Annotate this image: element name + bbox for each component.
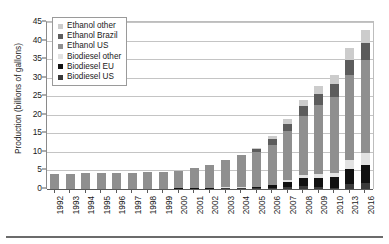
bar-segment	[361, 165, 370, 184]
x-tick-label-2013: 2013	[352, 196, 360, 214]
legend-item-biodiesel-other[interactable]: Biodiesel other	[56, 52, 121, 62]
y-tick-label-30: 30	[0, 72, 42, 80]
x-tick-mark-1994	[85, 189, 86, 193]
bar-segment	[361, 60, 370, 153]
bar-segment	[299, 178, 308, 187]
y-tick-label-45: 45	[0, 17, 42, 25]
legend-swatch-icon	[58, 24, 63, 29]
y-tick-label-10: 10	[0, 147, 42, 155]
x-tick-mark-1992	[54, 189, 55, 193]
x-tick-label-2008: 2008	[306, 196, 314, 214]
x-tick-mark-2013	[349, 189, 350, 193]
y-tick-label-0: 0	[0, 184, 42, 192]
bar-column-2006[interactable]	[268, 22, 277, 189]
legend-item-ethanol-brazil[interactable]: Ethanol Brazil	[56, 31, 121, 41]
x-tick-mark-1993	[69, 189, 70, 193]
bar-segment	[159, 172, 168, 189]
legend-swatch-icon	[58, 75, 63, 80]
bar-segment	[66, 174, 75, 189]
chart-figure: Production (billions of gallons) 0510152…	[0, 0, 389, 244]
bar-column-2007[interactable]	[283, 22, 292, 189]
bar-column-2002[interactable]	[205, 22, 214, 189]
legend-item-ethanol-other[interactable]: Ethanol other	[56, 21, 121, 31]
bar-segment	[221, 160, 230, 187]
x-tick-mark-2010	[333, 189, 334, 193]
legend-label: Biodiesel other	[67, 53, 121, 61]
legend-item-biodiesel-eu[interactable]: Biodiesel EU	[56, 62, 121, 72]
legend-swatch-icon	[58, 54, 63, 59]
bar-segment	[128, 173, 137, 189]
x-tick-label-2010: 2010	[337, 196, 345, 214]
bar-segment	[314, 178, 323, 188]
bar-segment	[190, 168, 199, 188]
x-tick-label-2000: 2000	[181, 196, 189, 214]
x-tick-mark-1999	[162, 189, 163, 193]
bar-segment	[330, 75, 339, 85]
x-tick-mark-2008	[302, 189, 303, 193]
x-tick-mark-2003	[225, 189, 226, 193]
x-tick-label-1998: 1998	[150, 196, 158, 214]
bar-segment	[299, 106, 308, 116]
bar-column-2009[interactable]	[314, 22, 323, 189]
bar-column-1998[interactable]	[143, 22, 152, 189]
bar-segment	[345, 75, 354, 160]
bar-segment	[345, 160, 354, 169]
x-tick-label-1997: 1997	[135, 196, 143, 214]
x-tick-label-2006: 2006	[274, 196, 282, 214]
x-tick-label-1992: 1992	[57, 196, 65, 214]
x-tick-mark-2016	[364, 189, 365, 193]
x-tick-label-2007: 2007	[290, 196, 298, 214]
legend-swatch-icon	[58, 34, 63, 39]
x-tick-mark-2004	[240, 189, 241, 193]
legend-label: Ethanol other	[67, 22, 116, 30]
x-tick-mark-1995	[100, 189, 101, 193]
legend-item-biodiesel-us[interactable]: Biodiesel US	[56, 72, 121, 82]
x-tick-label-2016: 2016	[368, 196, 376, 214]
figure-bottom-rule	[6, 236, 383, 238]
x-tick-mark-1998	[147, 189, 148, 193]
bar-segment	[361, 153, 370, 165]
x-tick-label-2002: 2002	[212, 196, 220, 214]
x-tick-mark-2001	[193, 189, 194, 193]
legend-swatch-icon	[58, 44, 63, 49]
chart-legend: Ethanol otherEthanol BrazilEthanol USBio…	[52, 17, 127, 86]
bar-segment	[268, 145, 277, 185]
bar-segment	[283, 131, 292, 180]
y-tick-label-5: 5	[0, 165, 42, 173]
bar-segment	[361, 43, 370, 60]
bar-segment	[314, 86, 323, 94]
bar-column-2003[interactable]	[221, 22, 230, 189]
bar-column-1997[interactable]	[128, 22, 137, 189]
legend-item-ethanol-us[interactable]: Ethanol US	[56, 41, 121, 51]
x-tick-label-2009: 2009	[321, 196, 329, 214]
bar-column-2013[interactable]	[345, 22, 354, 189]
x-tick-mark-1996	[116, 189, 117, 193]
bar-segment	[299, 100, 308, 107]
bar-segment	[314, 94, 323, 105]
bar-column-2010[interactable]	[330, 22, 339, 189]
x-tick-label-2003: 2003	[228, 196, 236, 214]
bar-column-1999[interactable]	[159, 22, 168, 189]
bar-column-2004[interactable]	[237, 22, 246, 189]
bar-segment	[81, 173, 90, 189]
bar-column-2000[interactable]	[174, 22, 183, 189]
bar-column-2016[interactable]	[361, 22, 370, 189]
x-tick-label-1995: 1995	[104, 196, 112, 214]
bar-segment	[299, 116, 308, 175]
bar-column-2005[interactable]	[252, 22, 261, 189]
y-tick-label-15: 15	[0, 128, 42, 136]
bar-segment	[330, 97, 339, 173]
bar-column-2008[interactable]	[299, 22, 308, 189]
bar-segment	[205, 165, 214, 188]
y-tick-label-25: 25	[0, 91, 42, 99]
x-tick-mark-2007	[287, 189, 288, 193]
y-tick-label-40: 40	[0, 35, 42, 43]
bar-segment	[50, 174, 59, 189]
bar-segment	[237, 155, 246, 187]
bar-segment	[345, 169, 354, 184]
legend-label: Ethanol Brazil	[67, 32, 118, 40]
bar-column-2001[interactable]	[190, 22, 199, 189]
bar-segment	[97, 173, 106, 189]
x-tick-mark-1997	[131, 189, 132, 193]
x-tick-label-1994: 1994	[88, 196, 96, 214]
